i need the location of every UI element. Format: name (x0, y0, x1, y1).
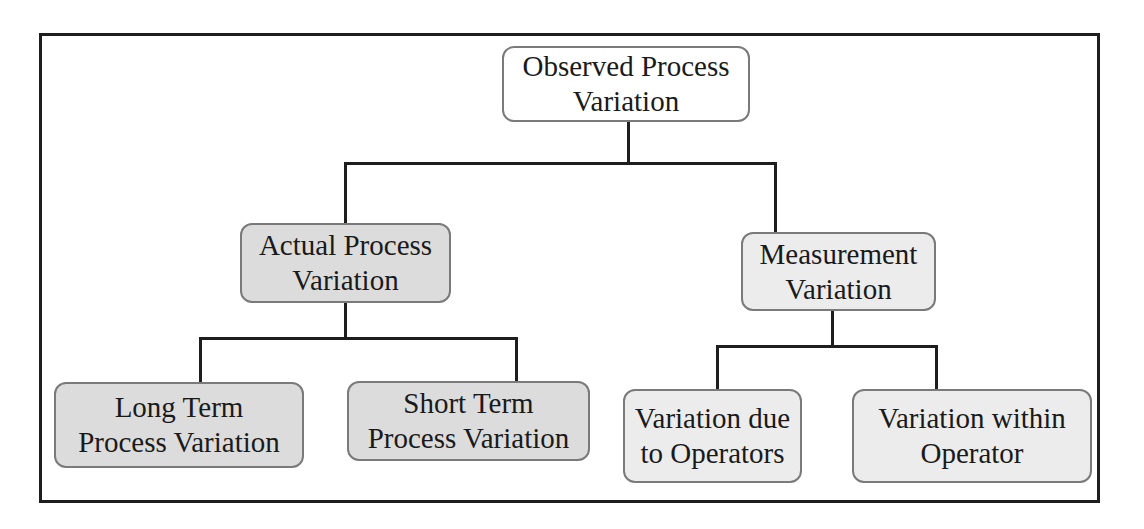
connector-actual-stem (344, 302, 347, 339)
node-label: Short Term Process Variation (368, 386, 570, 456)
node-observed-process-variation: Observed Process Variation (502, 46, 750, 122)
node-label: Observed Process Variation (523, 49, 730, 119)
node-short-term-process-variation: Short Term Process Variation (347, 381, 590, 461)
connector-to-measurement (774, 162, 777, 233)
connector-root-stem (627, 121, 630, 164)
connector-measurement-bar (716, 345, 938, 348)
node-label: Variation due to Operators (635, 401, 790, 471)
node-actual-process-variation: Actual Process Variation (240, 223, 451, 303)
node-long-term-process-variation: Long Term Process Variation (54, 382, 304, 468)
connector-to-actual (344, 162, 347, 224)
connector-root-bar (344, 162, 777, 165)
node-label: Actual Process Variation (259, 228, 432, 298)
connector-to-short-term (515, 337, 518, 382)
connector-to-operators (716, 345, 719, 390)
connector-actual-bar (199, 337, 518, 340)
node-measurement-variation: Measurement Variation (741, 232, 936, 311)
connector-to-within-operator (935, 345, 938, 390)
connector-measurement-stem (831, 310, 834, 347)
node-label: Long Term Process Variation (78, 390, 280, 460)
node-label: Variation within Operator (878, 401, 1066, 471)
node-variation-within-operator: Variation within Operator (852, 389, 1092, 483)
connector-to-long-term (199, 337, 202, 383)
node-label: Measurement Variation (760, 237, 918, 307)
node-variation-due-to-operators: Variation due to Operators (623, 389, 802, 483)
